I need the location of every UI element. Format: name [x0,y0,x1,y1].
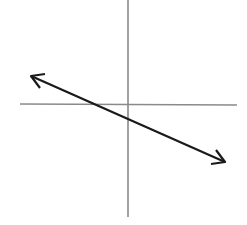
graph [0,0,247,225]
x-axis [20,104,237,105]
